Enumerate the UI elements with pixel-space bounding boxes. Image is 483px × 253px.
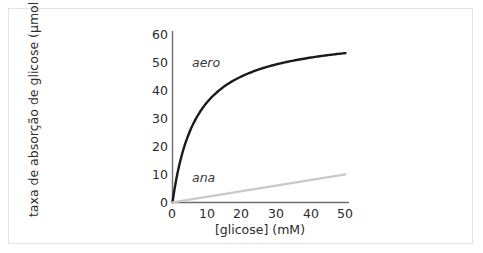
x-axis-title: [glicose] (mM): [190, 222, 330, 237]
y-tick-label-30: 30: [142, 113, 168, 126]
x-tick-label-0: 0: [158, 208, 186, 221]
x-tick-label-50: 50: [331, 208, 359, 221]
y-tick-label-50: 50: [142, 57, 168, 70]
x-tick-label-10: 10: [193, 208, 221, 221]
y-tick-label-60: 60: [142, 29, 168, 42]
x-tick-label-40: 40: [297, 208, 325, 221]
series-annotation-ana: ana: [192, 170, 215, 185]
y-axis-title-main: taxa de absorção de glicose (µmol h: [26, 0, 41, 217]
y-tick-label-40: 40: [142, 85, 168, 98]
series-annotation-aero: aero: [192, 55, 220, 70]
chart-plot-area: 60 50 40 30 20 10 0 0 10 20 30 40 50 tax…: [0, 0, 483, 253]
y-tick-label-10: 10: [142, 169, 168, 182]
y-tick-label-20: 20: [142, 141, 168, 154]
y-axis-title: taxa de absorção de glicose (µmol h-1): [25, 27, 41, 217]
x-tick-label-30: 30: [262, 208, 290, 221]
x-tick-label-20: 20: [227, 208, 255, 221]
